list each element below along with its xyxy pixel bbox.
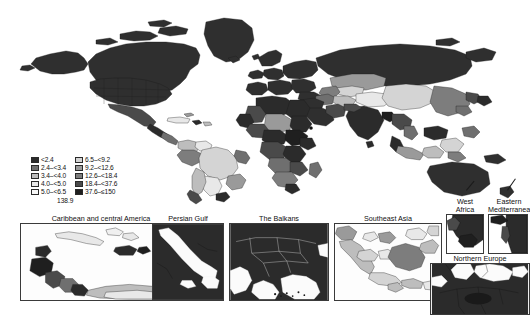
legend-label: 3.4–<4.0 — [41, 172, 66, 180]
figure-root: <2.4 2.4–<3.4 3.4–<4.0 4.0–<5.0 5.0–<6.5 — [0, 0, 530, 323]
inset-west-africa: West Africa — [446, 198, 484, 254]
legend-swatch — [75, 157, 83, 163]
inset-title-southeast-asia: Southeast Asia — [334, 215, 442, 223]
inset-title-northern-europe: Northern Europe — [430, 255, 530, 263]
legend-item: 9.2–<12.6 — [75, 164, 117, 172]
inset-frame-eastern-mediterranean — [488, 214, 528, 254]
legend-max-annotation: 138.9 — [57, 197, 151, 204]
inset-frame-northern-europe — [430, 263, 530, 315]
inset-title-persian-gulf: Persian Gulf — [152, 215, 224, 223]
legend-swatch — [31, 165, 39, 171]
legend-label: 9.2–<12.6 — [85, 164, 114, 172]
legend-item: 37.6–≤150 — [75, 188, 117, 196]
inset-southeast-asia: Southeast Asia — [334, 215, 442, 301]
legend-swatch — [75, 173, 83, 179]
legend-swatch — [31, 157, 39, 163]
inset-title-west-africa: West Africa — [446, 198, 484, 214]
legend-column-left: <2.4 2.4–<3.4 3.4–<4.0 4.0–<5.0 5.0–<6.5 — [31, 156, 66, 196]
legend-swatch — [75, 165, 83, 171]
inset-northern-europe: Northern Europe — [430, 255, 530, 315]
legend-swatch — [31, 189, 39, 195]
legend-label: 12.6–<18.4 — [85, 172, 117, 180]
legend-swatch — [75, 189, 83, 195]
legend-label: 2.4–<3.4 — [41, 164, 66, 172]
legend-label: 6.5–<9.2 — [85, 156, 110, 164]
legend-item: 3.4–<4.0 — [31, 172, 66, 180]
legend-label: 37.6–≤150 — [85, 188, 115, 196]
legend-item: 2.4–<3.4 — [31, 164, 66, 172]
inset-balkans: The Balkans — [229, 215, 329, 301]
legend-swatch — [75, 181, 83, 187]
legend-item: 12.6–<18.4 — [75, 172, 117, 180]
legend-label: 4.0–<5.0 — [41, 180, 66, 188]
inset-frame-southeast-asia — [334, 223, 442, 301]
legend-column-right: 6.5–<9.2 9.2–<12.6 12.6–<18.4 18.4–<37.6… — [75, 156, 117, 196]
legend-item: 4.0–<5.0 — [31, 180, 66, 188]
legend-label: 18.4–<37.6 — [85, 180, 117, 188]
map-legend: <2.4 2.4–<3.4 3.4–<4.0 4.0–<5.0 5.0–<6.5 — [31, 156, 151, 204]
legend-swatch — [31, 173, 39, 179]
legend-item: 5.0–<6.5 — [31, 188, 66, 196]
inset-title-balkans: The Balkans — [229, 215, 329, 223]
legend-label: 5.0–<6.5 — [41, 188, 66, 196]
legend-swatch — [31, 181, 39, 187]
inset-title-eastern-mediterranean: Eastern Mediterranean — [488, 198, 530, 214]
inset-persian-gulf: Persian Gulf — [152, 215, 224, 301]
legend-item: <2.4 — [31, 156, 66, 164]
inset-eastern-mediterranean: Eastern Mediterranean — [488, 198, 530, 254]
legend-item: 6.5–<9.2 — [75, 156, 117, 164]
inset-frame-west-africa — [446, 214, 484, 254]
inset-frame-balkans — [229, 223, 329, 301]
inset-frame-persian-gulf — [152, 223, 224, 301]
legend-item: 18.4–<37.6 — [75, 180, 117, 188]
legend-label: <2.4 — [41, 156, 54, 164]
